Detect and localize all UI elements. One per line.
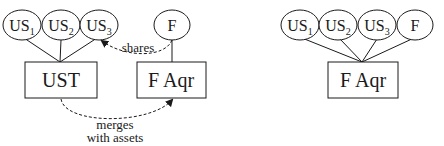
node-r-us2: US2 — [319, 10, 357, 40]
left-diagram: US1 US2 US3 F UST F Aqr shares merges wi — [3, 10, 206, 145]
merges-label-line2: with assets — [87, 130, 144, 145]
node-r-f: F — [397, 10, 433, 40]
node-faqr-box: F Aqr — [137, 62, 206, 98]
edge-us1-ust — [24, 38, 60, 62]
svg-text:F Aqr: F Aqr — [340, 69, 386, 92]
svg-text:F: F — [411, 17, 420, 34]
edge-r-us2 — [340, 39, 362, 62]
edge-us2-ust — [60, 40, 61, 62]
diagram-canvas: US1 US2 US3 F UST F Aqr shares merges wi — [0, 0, 444, 146]
svg-text:F: F — [168, 17, 177, 34]
right-diagram: US1 US2 US3 F F Aqr — [281, 10, 433, 98]
shares-label: shares — [122, 40, 155, 55]
node-r-faqr-box: F Aqr — [328, 62, 398, 98]
node-us3: US3 — [80, 10, 118, 40]
node-us2: US2 — [42, 10, 80, 40]
node-r-us3: US3 — [358, 10, 396, 40]
node-us1: US1 — [3, 10, 41, 40]
svg-text:UST: UST — [42, 69, 80, 91]
node-f: F — [154, 10, 190, 40]
merges-arrow — [61, 99, 172, 119]
node-ust-box: UST — [25, 62, 97, 98]
svg-text:F Aqr: F Aqr — [148, 69, 194, 92]
node-r-us1: US1 — [281, 10, 319, 40]
edge-us3-ust — [60, 38, 97, 62]
edge-r-us1 — [302, 38, 362, 62]
